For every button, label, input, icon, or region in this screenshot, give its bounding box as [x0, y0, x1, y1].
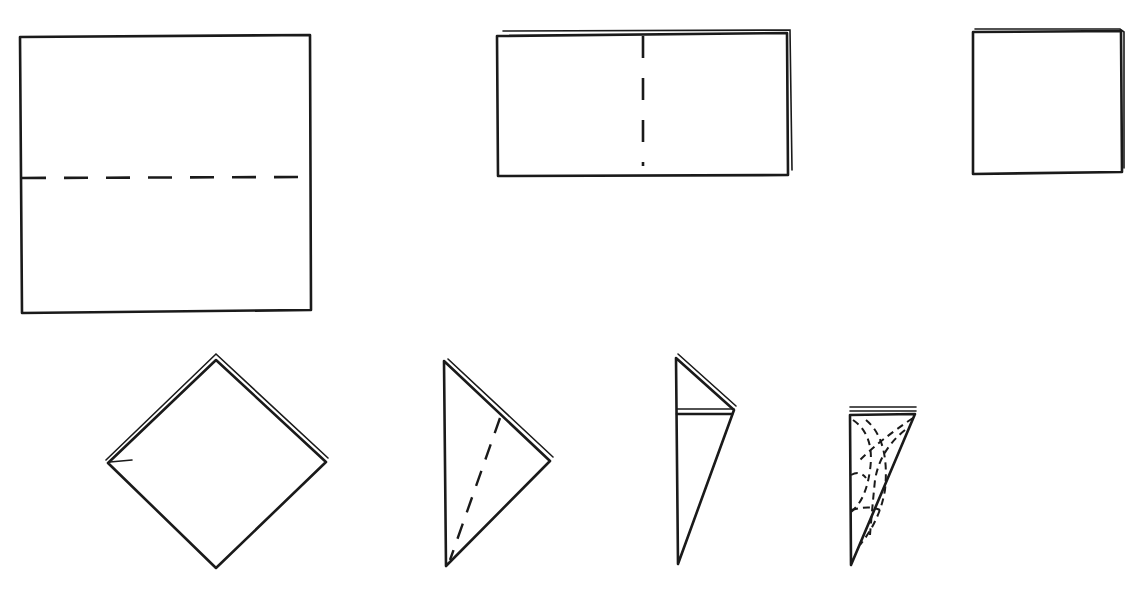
folding-diagram [0, 0, 1141, 604]
step-5-triangle [444, 359, 553, 566]
step-3-small-square [973, 29, 1124, 174]
step-2-rectangle [497, 30, 792, 176]
cut-lines [851, 418, 913, 545]
fold-line-horizontal [22, 177, 298, 178]
step-1-square [20, 35, 311, 313]
step-4-diamond [106, 354, 328, 568]
step-6-narrow-triangle [676, 354, 736, 564]
step-7-cut-pattern [850, 407, 916, 565]
fold-line-diagonal [450, 418, 500, 560]
